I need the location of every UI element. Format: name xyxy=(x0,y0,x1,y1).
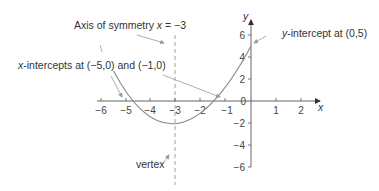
svg-text:−3: −3 xyxy=(169,105,181,116)
svg-text:−5: −5 xyxy=(120,105,132,116)
svg-text:6: 6 xyxy=(239,30,245,41)
y-intercept-label: y-intercept at (0,5) xyxy=(281,27,367,39)
x-tick-labels: −6 −5 −4 −3 −2 −1 1 2 xyxy=(95,105,304,116)
svg-text:2: 2 xyxy=(298,105,304,116)
parabola-chart: −6 −5 −4 −3 −2 −1 1 2 6 4 2 0 −2 −4 −6 x… xyxy=(0,0,379,191)
xint-right-arrow xyxy=(163,75,220,97)
yint-arrow xyxy=(254,36,266,43)
svg-text:−1: −1 xyxy=(221,105,233,116)
x-intercepts-label: x-intercepts at (−5,0) and (−1,0) xyxy=(17,59,166,71)
vertex-label: vertex xyxy=(136,158,165,170)
y-tick-labels: 6 4 2 0 −2 −4 −6 xyxy=(234,30,247,173)
y-axis-label: y xyxy=(242,10,249,22)
axis-annotation-arrow xyxy=(137,35,164,43)
svg-text:−2: −2 xyxy=(234,118,246,129)
svg-text:−6: −6 xyxy=(234,162,246,173)
svg-text:−4: −4 xyxy=(234,140,246,151)
xint-left-arrow xyxy=(111,76,122,97)
svg-text:2: 2 xyxy=(239,74,245,85)
x-axis-label: x xyxy=(317,101,324,113)
vertex-arrow xyxy=(164,155,169,162)
svg-text:−6: −6 xyxy=(95,105,107,116)
svg-text:1: 1 xyxy=(273,105,279,116)
origin-label: 0 xyxy=(240,96,246,107)
left-tick-mark xyxy=(100,45,102,52)
axis-of-symmetry-label: Axis of symmetry x = −3 xyxy=(74,19,186,31)
